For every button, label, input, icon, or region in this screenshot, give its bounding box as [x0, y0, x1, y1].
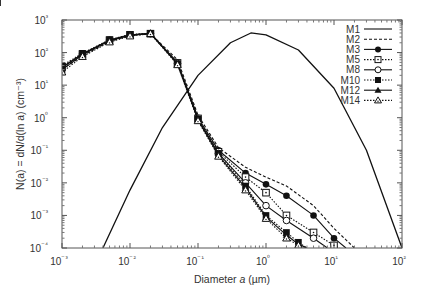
x-tick-label: 10⁻²	[118, 254, 136, 267]
y-tick-label: 10⁻²	[31, 176, 49, 189]
corner-mark	[0, 0, 1, 6]
x-tick-label: 10¹	[324, 254, 338, 267]
y-tick-label: 10³	[35, 13, 49, 26]
x-tick-label: 10⁻¹	[186, 254, 204, 267]
y-tick-label: 10⁻⁴	[30, 241, 48, 254]
x-tick-label: 10⁻³	[50, 254, 68, 267]
series-m5	[59, 30, 340, 248]
x-tick-label: 10²	[392, 254, 406, 267]
series-m10	[59, 30, 307, 248]
y-tick-labels: 10³10²10¹10⁰10⁻¹10⁻²10⁻³10⁻⁴	[30, 13, 49, 254]
x-tick-label: 10⁰	[256, 254, 270, 267]
legend-item-m14: M14	[341, 95, 392, 106]
series-m3	[59, 30, 346, 248]
y-tick-label: 10⁰	[34, 111, 48, 124]
y-axis-title: N(a) = dN/d(ln a) (cm⁻³)	[14, 78, 26, 190]
x-tick-labels: 10⁻³10⁻²10⁻¹10⁰10¹10²	[50, 254, 406, 267]
x-axis-title: Diameter a (µm)	[194, 273, 270, 285]
y-tick-label: 10⁻³	[31, 208, 49, 221]
y-tick-label: 10²	[35, 46, 49, 59]
legend: M1M2M3M5M8M10M12M14	[341, 24, 392, 106]
legend-label: M14	[341, 95, 361, 106]
series-m12	[58, 29, 307, 248]
series-m14	[58, 30, 307, 248]
y-tick-label: 10¹	[35, 78, 49, 91]
size-distribution-chart: 10⁻³10⁻²10⁻¹10⁰10¹10² 10³10²10¹10⁰10⁻¹10…	[0, 0, 423, 296]
y-tick-label: 10⁻¹	[31, 143, 49, 156]
